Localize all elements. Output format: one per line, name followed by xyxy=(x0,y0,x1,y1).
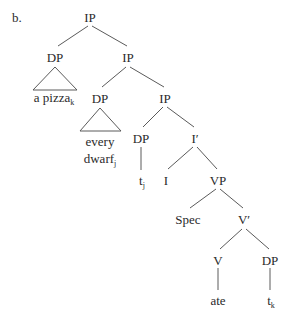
triangle-dp-obj xyxy=(33,67,77,90)
edge-ip2-dp xyxy=(102,67,126,87)
node-dp-subject: DP xyxy=(92,91,109,106)
edge-vp-spec xyxy=(190,189,216,208)
edge-vp-vbar xyxy=(220,189,243,208)
node-spec: Spec xyxy=(175,212,201,227)
edge-ibar-vp xyxy=(197,147,217,169)
edge-vbar-v xyxy=(220,229,242,249)
node-v-head: V xyxy=(213,253,223,268)
triangle-dp-subj xyxy=(80,108,121,131)
leaf-trace-k: tk xyxy=(267,293,275,310)
syntax-tree: b. IP DP IP DP IP DP I′ I VP Spec V′ V D… xyxy=(0,0,291,318)
edge-ip3-ibar xyxy=(167,107,194,127)
leaf-trace-j: tj xyxy=(139,173,145,190)
index-j: j xyxy=(113,159,116,168)
node-dp-trace: DP xyxy=(133,131,150,146)
leaf-every: every xyxy=(86,134,115,149)
node-dp-complement: DP xyxy=(262,253,279,268)
node-dp-object: DP xyxy=(47,50,64,65)
leaf-dwarf: dwarfj xyxy=(84,151,117,168)
edge-ibar-i xyxy=(168,147,193,169)
node-i-head: I xyxy=(164,173,168,188)
edge-ip-ip2 xyxy=(92,26,127,46)
leaf-ate: ate xyxy=(210,293,225,308)
node-i-bar: I′ xyxy=(191,131,198,146)
example-label: b. xyxy=(12,10,22,25)
edge-ip-dp xyxy=(58,26,88,46)
edge-ip3-dp xyxy=(143,107,163,127)
index-j: j xyxy=(142,181,145,190)
node-vp: VP xyxy=(210,173,227,188)
node-ip-root: IP xyxy=(84,10,96,25)
node-ip-3: IP xyxy=(159,91,171,106)
edge-ip2-ip3 xyxy=(130,67,164,87)
leaf-a-pizza: a pizzak xyxy=(34,90,74,107)
edge-vbar-dp xyxy=(246,229,269,249)
index-k: k xyxy=(70,98,74,107)
node-v-bar: V′ xyxy=(238,212,250,227)
node-ip-2: IP xyxy=(122,50,134,65)
index-k: k xyxy=(271,301,275,310)
